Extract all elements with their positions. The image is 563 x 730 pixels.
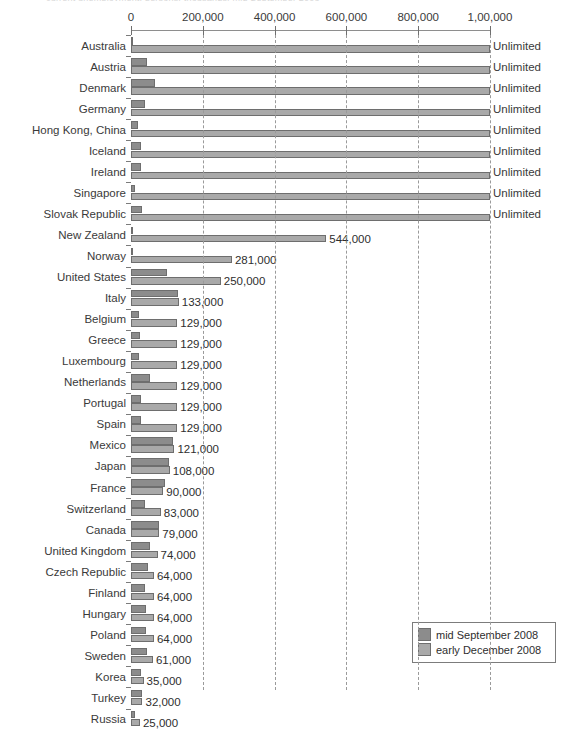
bar-early-december-2008 bbox=[131, 235, 326, 243]
chart-row: New Zealand544,000 bbox=[0, 224, 563, 245]
legend-label-dec: early December 2008 bbox=[436, 644, 541, 656]
category-label: Mexico bbox=[0, 439, 126, 451]
bar-value-label: 79,000 bbox=[159, 529, 197, 540]
bar-mid-september-2008 bbox=[131, 290, 178, 298]
bar-value-label: Unlimited bbox=[493, 187, 541, 199]
bar-mid-september-2008 bbox=[131, 690, 142, 698]
bar-mid-september-2008 bbox=[131, 584, 145, 592]
bar-group: 25,000 bbox=[131, 709, 563, 730]
bar-early-december-2008 bbox=[131, 698, 142, 706]
bar-early-december-2008 bbox=[131, 109, 490, 117]
bar-early-december-2008 bbox=[131, 382, 177, 390]
gridline bbox=[490, 35, 491, 690]
bar-value-label: 64,000 bbox=[154, 592, 192, 603]
bar-mid-september-2008 bbox=[131, 500, 145, 508]
bar-value-label: 25,000 bbox=[140, 718, 178, 729]
bar-mid-september-2008 bbox=[131, 605, 146, 613]
bar-mid-september-2008 bbox=[131, 227, 133, 235]
bar-value-label: 32,000 bbox=[142, 697, 180, 708]
bar-value-label: Unlimited bbox=[493, 82, 541, 94]
bar-value-label: 129,000 bbox=[177, 423, 222, 434]
bar-value-label: 74,000 bbox=[158, 550, 196, 561]
chart-row: Russia25,000 bbox=[0, 709, 563, 730]
x-axis-line bbox=[131, 30, 490, 31]
category-label: Japan bbox=[0, 460, 126, 472]
chart-row: IcelandUnlimited bbox=[0, 140, 563, 161]
category-label: Germany bbox=[0, 103, 126, 115]
bar-early-december-2008 bbox=[131, 487, 163, 495]
x-axis-tick-label: 800,000 bbox=[397, 11, 439, 23]
bar-mid-september-2008 bbox=[131, 711, 135, 719]
category-label: Luxembourg bbox=[0, 355, 126, 367]
bar-value-label: 250,000 bbox=[221, 276, 266, 287]
bar-mid-september-2008 bbox=[131, 206, 142, 214]
category-label: Sweden bbox=[0, 650, 126, 662]
bar-value-label: 129,000 bbox=[177, 381, 222, 392]
chart-row: Korea35,000 bbox=[0, 666, 563, 687]
bar-early-december-2008 bbox=[131, 172, 490, 180]
bar-value-label: 129,000 bbox=[177, 318, 222, 329]
chart-row: Spain129,000 bbox=[0, 414, 563, 435]
bar-mid-september-2008 bbox=[131, 79, 155, 87]
bar-value-label: 544,000 bbox=[326, 234, 371, 245]
category-label: United Kingdom bbox=[0, 545, 126, 557]
bar-value-label: Unlimited bbox=[493, 103, 541, 115]
chart-row: Mexico121,000 bbox=[0, 435, 563, 456]
category-label: Australia bbox=[0, 40, 126, 52]
category-label: Iceland bbox=[0, 145, 126, 157]
bar-value-label: Unlimited bbox=[493, 124, 541, 136]
bar-value-label: Unlimited bbox=[493, 145, 541, 157]
bar-mid-september-2008 bbox=[131, 353, 139, 361]
category-label: Spain bbox=[0, 418, 126, 430]
category-label: New Zealand bbox=[0, 229, 126, 241]
bar-mid-september-2008 bbox=[131, 248, 133, 256]
chart-row: Luxembourg129,000 bbox=[0, 351, 563, 372]
bar-value-label: 129,000 bbox=[177, 402, 222, 413]
bar-early-december-2008 bbox=[131, 193, 490, 201]
bar-early-december-2008 bbox=[131, 614, 154, 622]
bar-early-december-2008 bbox=[131, 508, 161, 516]
bar-early-december-2008 bbox=[131, 677, 144, 685]
bar-early-december-2008 bbox=[131, 277, 221, 285]
x-axis-tick-label: 1,00,000 bbox=[468, 11, 513, 23]
chart-row: SingaporeUnlimited bbox=[0, 182, 563, 203]
bar-value-label: 90,000 bbox=[163, 487, 201, 498]
legend-item-dec: early December 2008 bbox=[418, 642, 550, 657]
chart-row: Belgium129,000 bbox=[0, 309, 563, 330]
category-label: Greece bbox=[0, 334, 126, 346]
bar-value-label: Unlimited bbox=[493, 208, 541, 220]
bar-early-december-2008 bbox=[131, 87, 490, 95]
category-label: Poland bbox=[0, 629, 126, 641]
bar-mid-september-2008 bbox=[131, 311, 139, 319]
bar-value-label: Unlimited bbox=[493, 166, 541, 178]
bar-mid-september-2008 bbox=[131, 416, 141, 424]
x-axis-tick-label: 400,000 bbox=[254, 11, 296, 23]
chart-row: Switzerland83,000 bbox=[0, 498, 563, 519]
chart-row: Hong Kong, ChinaUnlimited bbox=[0, 119, 563, 140]
category-label: Slovak Republic bbox=[0, 208, 126, 220]
x-axis-tick-label: 600,000 bbox=[326, 11, 368, 23]
category-label: Italy bbox=[0, 292, 126, 304]
category-label: Denmark bbox=[0, 82, 126, 94]
legend-item-sep: mid September 2008 bbox=[418, 627, 550, 642]
bar-mid-september-2008 bbox=[131, 163, 141, 171]
bar-mid-september-2008 bbox=[131, 269, 167, 277]
category-label: Austria bbox=[0, 61, 126, 73]
gridline bbox=[203, 35, 204, 690]
x-axis-tickmark bbox=[275, 26, 276, 35]
category-label: Belgium bbox=[0, 313, 126, 325]
x-axis-tickmark bbox=[490, 26, 491, 35]
chart-row: Netherlands129,000 bbox=[0, 372, 563, 393]
bar-value-label: 108,000 bbox=[170, 466, 215, 477]
bar-group: 32,000 bbox=[131, 687, 563, 708]
chart-row: Japan108,000 bbox=[0, 456, 563, 477]
bar-mid-september-2008 bbox=[131, 395, 141, 403]
bar-value-label: 281,000 bbox=[232, 255, 277, 266]
category-label: United States bbox=[0, 271, 126, 283]
chart-row: Canada79,000 bbox=[0, 519, 563, 540]
bar-early-december-2008 bbox=[131, 403, 177, 411]
bar-mid-september-2008 bbox=[131, 521, 159, 529]
bar-early-december-2008 bbox=[131, 466, 170, 474]
bar-value-label: Unlimited bbox=[493, 40, 541, 52]
bar-value-label: 35,000 bbox=[144, 676, 182, 687]
